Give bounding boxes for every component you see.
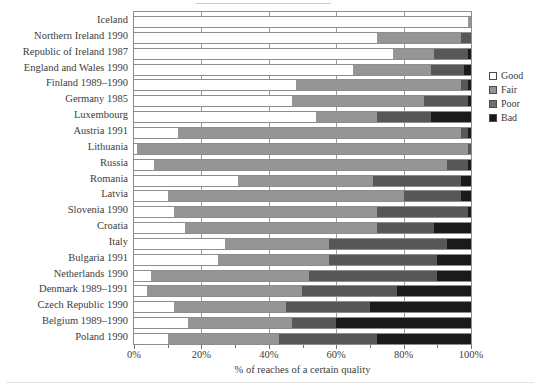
bar-segment-good [134, 17, 468, 27]
bar-segment-bad [468, 128, 471, 138]
table-row [134, 79, 471, 91]
table-row [134, 285, 471, 297]
y-axis-label: Iceland [0, 14, 128, 26]
bar-segment-bad [370, 302, 471, 312]
table-row [134, 301, 471, 313]
bar-segment-bad [377, 334, 471, 344]
y-axis-label: Lithuania [0, 141, 128, 153]
bar-segment-fair [168, 334, 279, 344]
x-axis-title: % of reaches of a certain quality [133, 364, 472, 375]
bar-segment-fair [174, 207, 376, 217]
legend-label: Good [501, 70, 523, 81]
y-axis-label: Denmark 1989–1991 [0, 283, 128, 295]
x-axis-tick-labels: 0%20%40%60%80%100% [0, 348, 540, 362]
bar-segment-good [134, 302, 174, 312]
bar-segment-good [134, 80, 296, 90]
table-row [134, 222, 471, 234]
bar-segment-good [134, 128, 178, 138]
x-tick-label: 20% [192, 348, 211, 361]
y-axis-label: Netherlands 1990 [0, 268, 128, 280]
table-row [134, 254, 471, 266]
legend-item-good[interactable]: Good [489, 69, 537, 82]
x-tick-label: 100% [459, 348, 484, 361]
legend-swatch-icon [489, 72, 497, 80]
bar-segment-bad [437, 255, 471, 265]
bar-segment-poor [424, 96, 468, 106]
legend-label: Fair [501, 84, 517, 95]
bar-segment-fair [292, 96, 423, 106]
bar-segment-fair [147, 286, 302, 296]
bar-segment-poor [461, 33, 471, 43]
legend-label: Poor [501, 98, 520, 109]
bar-segment-good [134, 286, 147, 296]
table-row [134, 333, 471, 345]
y-axis-label: Bulgaria 1991 [0, 252, 128, 264]
bar-segment-bad [447, 239, 471, 249]
y-axis-label: Poland 1990 [0, 331, 128, 343]
bar-segment-poor [377, 207, 468, 217]
table-row [134, 175, 471, 187]
bar-segment-poor [292, 318, 336, 328]
legend-item-bad[interactable]: Bad [489, 111, 537, 124]
bar-segment-good [134, 160, 154, 170]
bar-segment-good [134, 191, 168, 201]
table-row [134, 143, 471, 155]
legend-swatch-icon [489, 100, 497, 108]
y-axis-label: Russia [0, 157, 128, 169]
bar-segment-bad [468, 207, 471, 217]
table-row [134, 64, 471, 76]
y-axis-label: Croatia [0, 220, 128, 232]
y-axis-label: Republic of Ireland 1987 [0, 46, 128, 58]
bar-segment-poor [373, 176, 461, 186]
y-axis-label: England and Wales 1990 [0, 62, 128, 74]
bar-segment-fair [238, 176, 373, 186]
bar-segment-good [134, 65, 353, 75]
y-axis-label: Latvia [0, 188, 128, 200]
bar-segment-poor [377, 223, 434, 233]
bar-segment-bad [468, 160, 471, 170]
bar-segment-fair [174, 302, 285, 312]
bar-segment-bad [468, 96, 471, 106]
table-row [134, 270, 471, 282]
bar-segment-bad [437, 271, 471, 281]
bar-segment-bad [431, 112, 471, 122]
legend-item-poor[interactable]: Poor [489, 97, 537, 110]
bar-segment-fair [353, 65, 431, 75]
bar-segment-fair [468, 17, 471, 27]
bar-segment-poor [286, 302, 370, 312]
table-row [134, 238, 471, 250]
table-row [134, 16, 471, 28]
table-row [134, 317, 471, 329]
legend-swatch-icon [489, 114, 497, 122]
bar-segment-good [134, 176, 238, 186]
bar-segment-bad [397, 286, 471, 296]
bar-rows [134, 12, 471, 344]
y-axis-label: Romania [0, 173, 128, 185]
bar-segment-bad [461, 191, 471, 201]
bar-segment-fair [218, 255, 329, 265]
bar-segment-fair [296, 80, 461, 90]
bar-segment-fair [168, 191, 404, 201]
bar-segment-good [134, 271, 151, 281]
bar-segment-good [134, 112, 316, 122]
bar-segment-good [134, 255, 218, 265]
table-row [134, 159, 471, 171]
bar-segment-good [134, 334, 168, 344]
bar-segment-fair [188, 318, 292, 328]
y-axis-label: Luxembourg [0, 109, 128, 121]
y-axis-label: Belgium 1989–1990 [0, 315, 128, 327]
bar-segment-fair [377, 33, 461, 43]
y-axis-label: Slovenia 1990 [0, 204, 128, 216]
bar-segment-bad [461, 176, 471, 186]
legend-item-fair[interactable]: Fair [489, 83, 537, 96]
legend-label: Bad [501, 112, 517, 123]
bar-segment-fair [225, 239, 329, 249]
bar-segment-fair [185, 223, 377, 233]
table-row [134, 32, 471, 44]
bottom-decorative-rule [6, 382, 534, 383]
bar-segment-poor [434, 49, 468, 59]
bar-segment-poor [279, 334, 377, 344]
bar-segment-fair [178, 128, 461, 138]
bar-segment-poor [377, 112, 431, 122]
bar-segment-bad [468, 49, 471, 59]
